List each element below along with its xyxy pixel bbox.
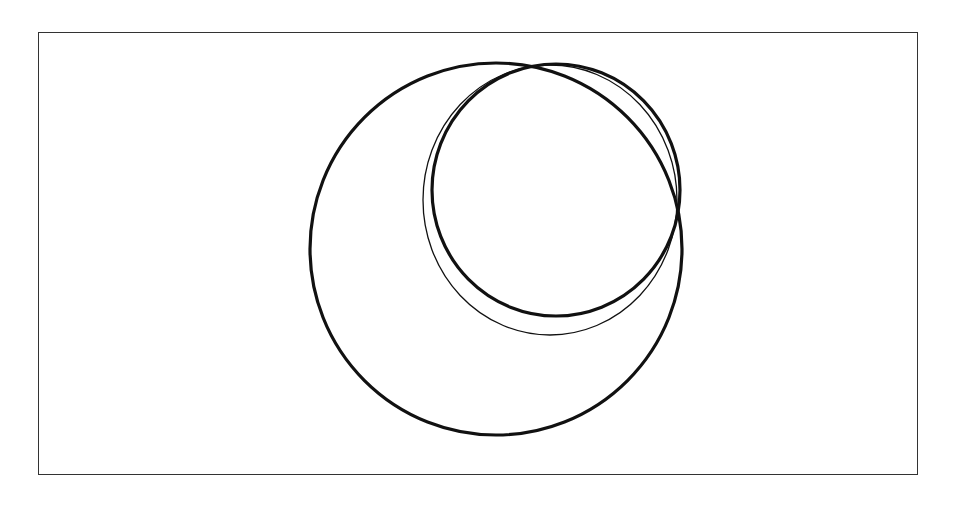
thin-circle — [423, 65, 677, 335]
medium-circle — [432, 64, 680, 316]
large-circle — [310, 63, 682, 435]
nested-circles-figure — [0, 0, 955, 506]
